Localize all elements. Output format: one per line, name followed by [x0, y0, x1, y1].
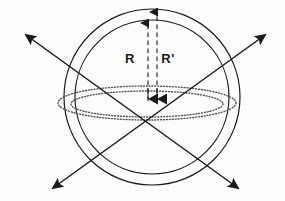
- label-outer-radius: R': [161, 51, 174, 66]
- label-inner-radius: R: [125, 51, 135, 66]
- figure-container: R R': [0, 0, 285, 201]
- sphere-diagram: R R': [0, 0, 285, 201]
- figure-background: [0, 0, 285, 201]
